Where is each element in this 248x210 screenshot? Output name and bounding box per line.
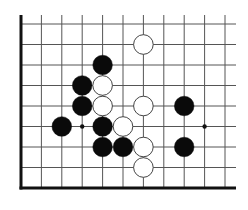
- black-stone: [93, 137, 113, 157]
- black-stone: [52, 117, 72, 137]
- black-stone: [174, 96, 194, 116]
- white-stone: [93, 76, 113, 96]
- black-stone: [174, 137, 194, 157]
- white-stone: [134, 137, 154, 157]
- white-stone: [134, 35, 154, 55]
- star-point-icon: [80, 124, 84, 128]
- white-stone: [113, 117, 133, 137]
- black-stone: [72, 76, 92, 96]
- white-stone: [134, 158, 154, 178]
- star-point-icon: [202, 124, 206, 128]
- black-stone: [93, 55, 113, 75]
- go-board: [0, 0, 248, 210]
- white-stone: [93, 96, 113, 116]
- black-stone: [72, 96, 92, 116]
- board-grid: [20, 15, 237, 190]
- black-stone: [113, 137, 133, 157]
- white-stone: [134, 96, 154, 116]
- black-stone: [93, 117, 113, 137]
